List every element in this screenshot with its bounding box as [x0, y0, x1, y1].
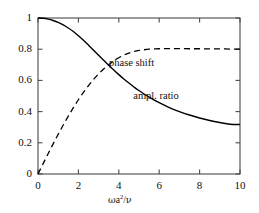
annotation-phase-shift: phase shift	[109, 57, 154, 68]
x-tick-label: 8	[186, 180, 214, 191]
omega-symbol: ω	[108, 194, 116, 205]
x-tick-label: 10	[226, 180, 254, 191]
figure-panel: 00.20.40.60.81 0246810 phase shiftampl. …	[0, 0, 259, 213]
y-tick-label: 1	[0, 12, 32, 23]
y-tick-label: 0.6	[0, 74, 32, 85]
y-tick-label: 0.4	[0, 106, 32, 117]
x-tick-label: 6	[145, 180, 173, 191]
x-tick-label: 0	[24, 180, 52, 191]
y-tick-label: 0.2	[0, 137, 32, 148]
nu-symbol: ν	[126, 194, 132, 205]
x-tick-label: 2	[64, 180, 92, 191]
y-tick-label: 0.8	[0, 43, 32, 54]
x-axis-title: ωa2/ν	[108, 195, 132, 205]
x-tick-label: 4	[105, 180, 133, 191]
series-line-ampl-ratio	[38, 18, 240, 125]
y-tick-label: 0	[0, 168, 32, 179]
annotation-ampl-ratio: ampl. ratio	[133, 90, 179, 101]
